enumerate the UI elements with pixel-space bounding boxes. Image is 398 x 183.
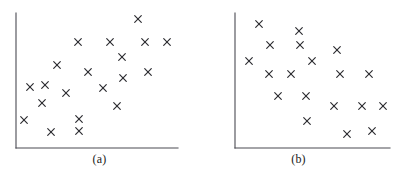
scatter-point — [366, 71, 373, 78]
scatter-point — [297, 42, 304, 49]
scatter-point — [256, 21, 263, 28]
panel-b-caption: (b) — [199, 152, 398, 167]
scatter-point — [76, 128, 83, 135]
scatter-point — [246, 58, 253, 65]
scatter-point — [75, 39, 82, 46]
scatter-point — [27, 84, 34, 91]
scatter-point — [145, 69, 152, 76]
scatter-point — [76, 116, 83, 123]
scatter-point — [100, 85, 107, 92]
scatter-plot-a — [0, 0, 199, 150]
scatter-point — [267, 42, 274, 49]
scatter-point — [142, 39, 149, 46]
scatter-point — [63, 90, 70, 97]
scatter-point — [344, 131, 351, 138]
scatter-point — [380, 103, 387, 110]
scatter-point — [331, 103, 338, 110]
scatter-point — [296, 28, 303, 35]
scatter-point — [39, 100, 46, 107]
scatter-point — [275, 93, 282, 100]
panel-a-caption: (a) — [0, 152, 199, 167]
scatter-plot-b — [199, 0, 398, 150]
scatter-point — [288, 71, 295, 78]
scatter-point — [304, 118, 311, 125]
scatter-point — [309, 58, 316, 65]
scatter-point — [120, 75, 127, 82]
scatter-panel-b: (b) — [199, 0, 398, 183]
scatter-figure: (a) (b) — [0, 0, 398, 183]
scatter-point — [107, 39, 114, 46]
scatter-point — [303, 93, 310, 100]
scatter-point — [369, 128, 376, 135]
scatter-point — [54, 62, 61, 69]
scatter-point — [164, 39, 171, 46]
scatter-point — [114, 103, 121, 110]
scatter-point — [85, 69, 92, 76]
scatter-point — [334, 47, 341, 54]
scatter-point — [42, 82, 49, 89]
scatter-point — [21, 117, 28, 124]
scatter-point — [119, 54, 126, 61]
scatter-point — [359, 103, 366, 110]
scatter-point — [48, 129, 55, 136]
scatter-point — [135, 16, 142, 23]
scatter-point — [266, 71, 273, 78]
scatter-point — [337, 71, 344, 78]
scatter-panel-a: (a) — [0, 0, 199, 183]
